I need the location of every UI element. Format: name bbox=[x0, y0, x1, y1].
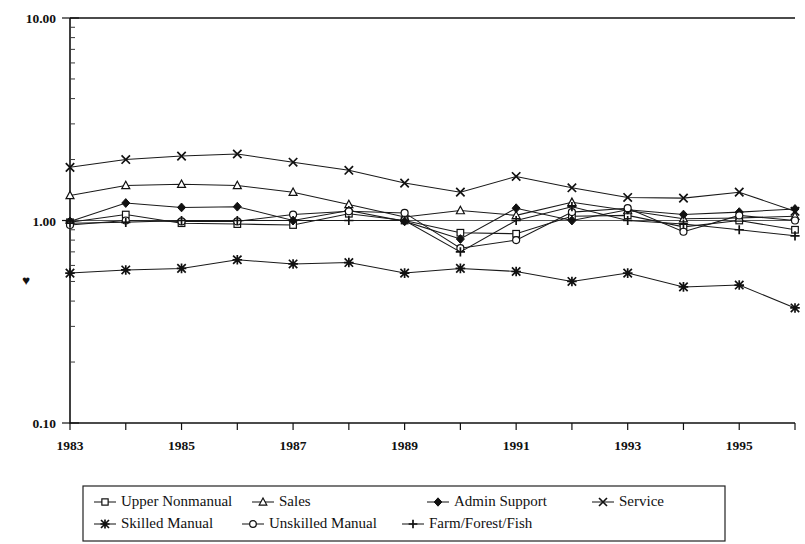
circle-marker-icon bbox=[680, 228, 687, 235]
y-tick-label: 0.10 bbox=[32, 416, 56, 431]
legend-item-label: Farm/Forest/Fish bbox=[429, 515, 533, 531]
series-layer bbox=[65, 150, 800, 313]
star-marker-icon bbox=[233, 255, 243, 265]
legend-item-label: Admin Support bbox=[454, 493, 548, 509]
series-line bbox=[70, 154, 795, 211]
series-unskilled-manual bbox=[67, 205, 799, 252]
chart-legend: Upper NonmanualSalesAdmin SupportService… bbox=[83, 486, 725, 541]
x-marker-icon bbox=[512, 172, 520, 180]
star-marker-icon bbox=[121, 265, 131, 275]
x-tick-label: 1987 bbox=[280, 438, 307, 453]
series-farm-forest-fish bbox=[65, 202, 799, 256]
series-service bbox=[66, 150, 799, 216]
star-marker-icon bbox=[344, 258, 354, 268]
series-sales bbox=[66, 180, 799, 222]
left-margin-glyph-icon: ♥ bbox=[22, 273, 30, 288]
diamond-marker-icon bbox=[122, 199, 130, 208]
legend-item-label: Service bbox=[619, 493, 664, 509]
x-tick-label: 1993 bbox=[614, 438, 641, 453]
circle-marker-icon bbox=[792, 217, 799, 224]
diamond-marker-icon bbox=[679, 210, 687, 219]
line-chart-svg: 10.001.000.10♥ 1983198519871989199119931… bbox=[0, 0, 805, 544]
circle-marker-icon bbox=[513, 237, 520, 244]
circle-marker-icon bbox=[401, 209, 408, 216]
circle-marker-icon bbox=[736, 212, 743, 219]
y-tick-label: 1.00 bbox=[32, 214, 56, 229]
star-marker-icon bbox=[288, 259, 298, 269]
legend-item-label: Sales bbox=[279, 493, 311, 509]
legend-item-label: Unskilled Manual bbox=[269, 515, 377, 531]
triangle-marker-icon bbox=[456, 206, 464, 213]
circle-marker-icon bbox=[624, 205, 631, 212]
legend-item-label: Upper Nonmanual bbox=[121, 493, 232, 509]
star-marker-icon bbox=[567, 277, 577, 287]
circle-marker-icon bbox=[250, 521, 257, 528]
x-tick-label: 1995 bbox=[726, 438, 753, 453]
triangle-marker-icon bbox=[178, 180, 186, 187]
y-tick-label: 10.00 bbox=[26, 11, 57, 26]
x-axis-labels: 1983198519871989199119931995 bbox=[57, 438, 753, 453]
x-tick-label: 1985 bbox=[168, 438, 195, 453]
y-axis-labels: 10.001.000.10♥ bbox=[22, 11, 56, 431]
legend-item-label: Skilled Manual bbox=[121, 515, 213, 531]
diamond-marker-icon bbox=[512, 204, 520, 213]
star-marker-icon bbox=[511, 267, 521, 277]
x-tick-label: 1991 bbox=[503, 438, 530, 453]
star-marker-icon bbox=[400, 268, 410, 278]
series-skilled-manual bbox=[65, 255, 800, 313]
star-marker-icon bbox=[65, 268, 75, 278]
star-marker-icon bbox=[100, 519, 109, 528]
star-marker-icon bbox=[456, 264, 466, 274]
chart-figure: 10.001.000.10♥ 1983198519871989199119931… bbox=[0, 0, 805, 544]
star-marker-icon bbox=[623, 268, 633, 278]
circle-marker-icon bbox=[345, 208, 352, 215]
x-tick-label: 1989 bbox=[391, 438, 418, 453]
x-tick-label: 1983 bbox=[57, 438, 84, 453]
diamond-marker-icon bbox=[233, 202, 241, 211]
square-marker-icon bbox=[102, 499, 108, 505]
plus-marker-icon bbox=[735, 225, 744, 234]
star-marker-icon bbox=[790, 303, 800, 313]
star-marker-icon bbox=[734, 280, 744, 290]
diamond-marker-icon bbox=[178, 203, 186, 212]
star-marker-icon bbox=[679, 282, 689, 292]
star-marker-icon bbox=[177, 264, 187, 274]
